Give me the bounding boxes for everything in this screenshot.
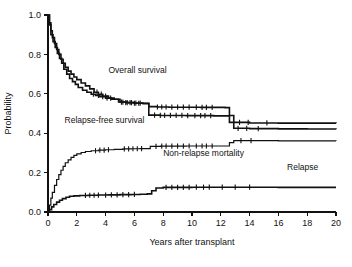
kaplan-meier-plot: 0.00.20.40.60.81.002468101214161820 Over… bbox=[0, 0, 352, 267]
y-tick-label: 0.8 bbox=[28, 50, 41, 60]
x-tick-label: 18 bbox=[302, 218, 312, 228]
curve-line bbox=[48, 187, 336, 212]
series-overall-survival bbox=[48, 15, 336, 126]
x-tick-label: 12 bbox=[216, 218, 226, 228]
curve-label-overall-survival: Overall survival bbox=[108, 65, 166, 75]
curve-label-non-relapse-mortality: Non-relapse mortality bbox=[163, 148, 245, 158]
survival-curve-figure: 0.00.20.40.60.81.002468101214161820 Over… bbox=[0, 0, 352, 267]
x-tick-label: 20 bbox=[331, 218, 341, 228]
y-tick-label: 0.4 bbox=[28, 128, 41, 138]
curve-label-relapse-free-survival: Relapse-free survival bbox=[65, 115, 145, 125]
x-tick-label: 0 bbox=[45, 218, 50, 228]
x-tick-label: 6 bbox=[132, 218, 137, 228]
curve-line bbox=[48, 15, 336, 129]
curve-line bbox=[48, 15, 336, 123]
x-tick-label: 16 bbox=[273, 218, 283, 228]
series-relapse bbox=[48, 185, 336, 212]
y-tick-label: 0.0 bbox=[28, 207, 41, 217]
x-tick-label: 2 bbox=[74, 218, 79, 228]
x-tick-label: 8 bbox=[161, 218, 166, 228]
y-tick-label: 0.2 bbox=[28, 168, 41, 178]
x-axis-title: Years after transplant bbox=[149, 237, 235, 247]
y-tick-label: 0.6 bbox=[28, 89, 41, 99]
curve-label-layer: Overall survivalRelapse-free survivalNon… bbox=[65, 65, 319, 172]
x-tick-label: 10 bbox=[187, 218, 197, 228]
series-relapse-free-survival bbox=[48, 15, 336, 131]
y-tick-label: 1.0 bbox=[28, 10, 41, 20]
curve-layer bbox=[48, 15, 336, 212]
x-tick-label: 4 bbox=[103, 218, 108, 228]
curve-label-relapse: Relapse bbox=[287, 162, 318, 172]
y-axis-title: Probability bbox=[3, 92, 13, 135]
x-tick-label: 14 bbox=[245, 218, 255, 228]
